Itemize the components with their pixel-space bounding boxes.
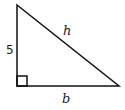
right-angle-marker bbox=[17, 76, 27, 86]
vertical-leg-label: 5 bbox=[6, 43, 14, 57]
triangle-outline bbox=[17, 5, 119, 86]
hypotenuse-label: h bbox=[63, 23, 71, 38]
base-label: b bbox=[62, 91, 70, 106]
right-triangle-diagram: 5 h b bbox=[0, 0, 125, 110]
